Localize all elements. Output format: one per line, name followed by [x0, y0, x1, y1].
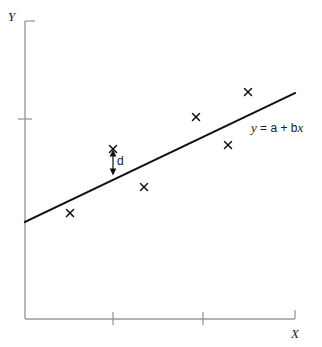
regression-figure: Y X d y = a + bx — [0, 0, 322, 347]
data-point-marker — [193, 114, 200, 121]
residual-distance-label: d — [117, 155, 124, 167]
data-point-marker — [245, 89, 252, 96]
regression-equation-label: y = a + bx — [251, 121, 303, 134]
regression-line — [25, 93, 295, 222]
residual-arrow — [111, 151, 116, 174]
data-point-marker — [225, 142, 232, 149]
equation-body: = a + b — [257, 121, 298, 135]
scatter-plot-canvas — [0, 0, 322, 347]
y-axis-label: Y — [8, 10, 15, 23]
data-point-marker — [141, 184, 148, 191]
x-axis-label: X — [291, 327, 299, 340]
data-point-marker — [67, 210, 74, 217]
equation-x-variable: x — [297, 120, 303, 135]
